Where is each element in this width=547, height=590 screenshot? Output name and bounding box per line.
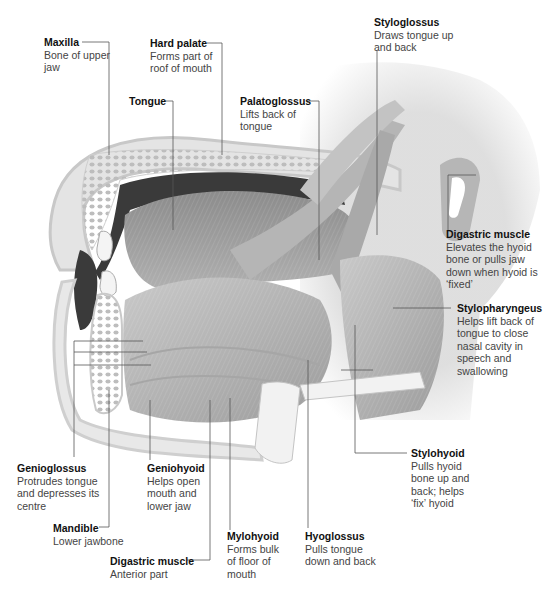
label-title: Stylopharyngeus bbox=[457, 302, 547, 315]
label-desc: Forms part of roof of mouth bbox=[150, 50, 222, 75]
mandible-bone bbox=[90, 294, 122, 413]
lower-incisor bbox=[100, 271, 116, 296]
label-title: Geniohyoid bbox=[147, 462, 203, 475]
label-mandible: Mandible Lower jawbone bbox=[53, 522, 143, 547]
label-title: Mylohyoid bbox=[227, 530, 289, 543]
label-desc: Bone of upper jaw bbox=[44, 49, 124, 74]
label-title: Stylohyoid bbox=[411, 447, 473, 460]
label-desc: Helps lift back of tongue to close nasal… bbox=[457, 315, 547, 378]
label-digastric-posterior: Digastric muscle Elevates the hyoid bone… bbox=[446, 228, 542, 291]
label-desc: Pulls hyoid bone up and back; helps ‘fix… bbox=[411, 460, 473, 510]
label-desc: Lifts back of tongue bbox=[240, 108, 310, 133]
label-title: Maxilla bbox=[44, 36, 124, 49]
hyoid-bone bbox=[255, 382, 300, 463]
label-title: Hyoglossus bbox=[305, 530, 385, 543]
label-title: Digastric muscle bbox=[446, 228, 542, 241]
label-mylohyoid: Mylohyoid Forms bulk of floor of mouth bbox=[227, 530, 289, 580]
label-desc: Helps open mouth and lower jaw bbox=[147, 475, 203, 513]
label-desc: Anterior part bbox=[110, 568, 210, 581]
label-hard-palate: Hard palate Forms part of roof of mouth bbox=[150, 37, 222, 75]
label-stylopharyngeus: Stylopharyngeus Helps lift back of tongu… bbox=[457, 302, 547, 377]
label-genioglossus: Genioglossus Protrudes tongue and depres… bbox=[17, 462, 107, 512]
upper-incisor bbox=[97, 231, 112, 261]
label-title: Genioglossus bbox=[17, 462, 107, 475]
label-title: Mandible bbox=[53, 522, 143, 535]
label-hyoglossus: Hyoglossus Pulls tongue down and back bbox=[305, 530, 385, 568]
label-styloglossus: Styloglossus Draws tongue up and back bbox=[374, 16, 464, 54]
label-title: Styloglossus bbox=[374, 16, 464, 29]
label-desc: Draws tongue up and back bbox=[374, 29, 464, 54]
label-tongue: Tongue bbox=[129, 95, 169, 108]
label-geniohyoid: Geniohyoid Helps open mouth and lower ja… bbox=[147, 462, 203, 512]
label-desc: Pulls tongue down and back bbox=[305, 543, 385, 568]
label-palatoglossus: Palatoglossus Lifts back of tongue bbox=[240, 95, 310, 133]
label-title: Digastric muscle bbox=[110, 555, 210, 568]
label-maxilla: Maxilla Bone of upper jaw bbox=[44, 36, 124, 74]
label-desc: Forms bulk of floor of mouth bbox=[227, 543, 289, 581]
label-title: Tongue bbox=[129, 95, 169, 108]
label-title: Palatoglossus bbox=[240, 95, 310, 108]
label-digastric-anterior: Digastric muscle Anterior part bbox=[110, 555, 210, 580]
label-desc: Lower jawbone bbox=[53, 535, 143, 548]
label-stylohyoid: Stylohyoid Pulls hyoid bone up and back;… bbox=[411, 447, 473, 510]
label-title: Hard palate bbox=[150, 37, 222, 50]
label-desc: Elevates the hyoid bone or pulls jaw dow… bbox=[446, 241, 542, 291]
label-desc: Protrudes tongue and depresses its centr… bbox=[17, 475, 107, 513]
